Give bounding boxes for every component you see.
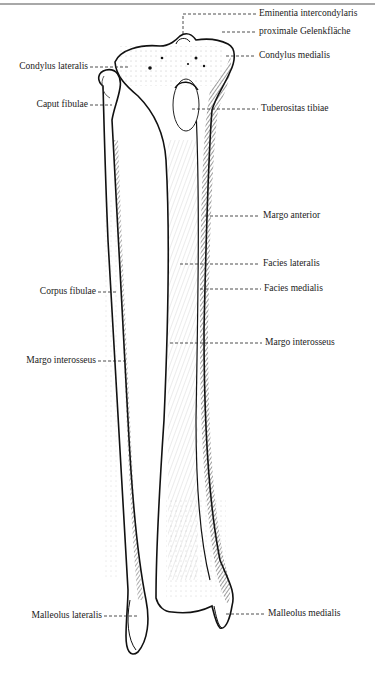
label-condylus-medialis: Condylus medialis [259, 50, 330, 61]
label-margo-anterior: Margo anterior [263, 210, 320, 221]
label-eminentia-intercondylaris: Eminentia intercondylaris [259, 8, 357, 19]
label-tuberositas-tibiae: Tuberositas tibiae [261, 103, 328, 114]
label-malleolus-lateralis: Malleolus lateralis [32, 610, 102, 621]
label-malleolus-medialis: Malleolus medialis [268, 608, 341, 619]
fibula [99, 70, 148, 654]
label-facies-medialis: Facies medialis [264, 283, 323, 294]
label-caput-fibulae: Caput fibulae [37, 99, 88, 110]
label-facies-lateralis: Facies lateralis [263, 258, 320, 269]
label-margo-interosseus-tibia: Margo interosseus [265, 337, 335, 348]
label-corpus-fibulae: Corpus fibulae [40, 286, 96, 297]
label-proximale-gelenkflaeche: proximale Gelenkfläche [259, 26, 351, 37]
label-condylus-lateralis: Condylus lateralis [19, 61, 88, 72]
label-margo-interosseus-fibula: Margo interosseus [26, 355, 96, 366]
